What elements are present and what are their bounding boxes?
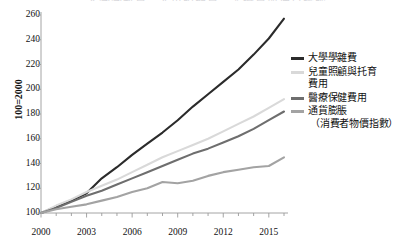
legend-label: 醫療保健費用	[308, 92, 414, 105]
legend-label-line2: 費用	[308, 78, 414, 91]
legend-swatch-icon	[291, 71, 304, 74]
legend-swatch-icon	[291, 110, 304, 113]
data-series-group	[41, 19, 284, 213]
legend-item-2[interactable]: 兒童照顧與托育費用	[291, 66, 414, 91]
legend-label-line2: （消費者物價指數）	[310, 118, 414, 131]
legend-item-1[interactable]: 大學學雜費	[291, 52, 414, 65]
legend-label: 兒童照顧與托育	[308, 66, 414, 79]
legend-swatch-icon	[291, 97, 304, 100]
legend-swatch-icon	[291, 57, 304, 60]
legend-item-4[interactable]: 通貨膨脹（消費者物價指數）	[291, 105, 414, 130]
legend-label: 大學學雜費	[308, 52, 414, 65]
chart-legend: 大學學雜費兒童照顧與托育費用醫療保健費用通貨膨脹（消費者物價指數）	[291, 52, 414, 131]
line-chart: 大學學雜費、兒童照顧費、醫療費與通貨膨脹 100=2000 1001201401…	[0, 0, 414, 248]
legend-item-3[interactable]: 醫療保健費用	[291, 92, 414, 105]
legend-label: 通貨膨脹	[308, 105, 414, 118]
axis-tick-marks	[38, 15, 285, 218]
